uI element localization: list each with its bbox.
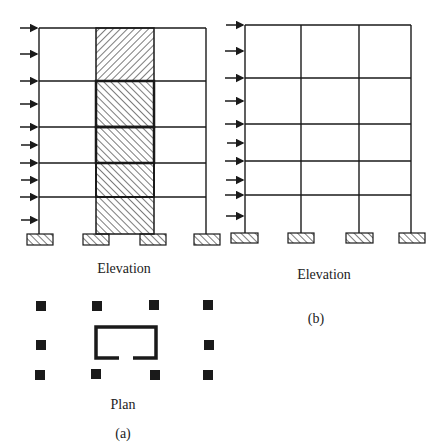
plan-core [96, 327, 156, 358]
lateral-load-arrows [20, 28, 37, 220]
structural-diagram: Elevation Plan (a) [0, 0, 442, 447]
elevation-a-label: Elevation [97, 261, 151, 276]
columns-b [245, 25, 411, 233]
plan-label: Plan [111, 397, 136, 412]
footings-b [231, 233, 425, 243]
elevation-b-label: Elevation [297, 267, 351, 282]
footings [27, 234, 220, 245]
elevation-a: Elevation [20, 28, 220, 276]
elevation-b: Elevation (b) [225, 25, 425, 327]
lateral-load-arrows-b [225, 25, 243, 216]
shear-wall-core [96, 28, 154, 234]
plan-a: Plan (a) [35, 300, 214, 442]
plan-columns [35, 300, 214, 380]
caption-a: (a) [115, 426, 131, 442]
floor-beams-b [245, 25, 411, 195]
caption-b: (b) [308, 311, 325, 327]
